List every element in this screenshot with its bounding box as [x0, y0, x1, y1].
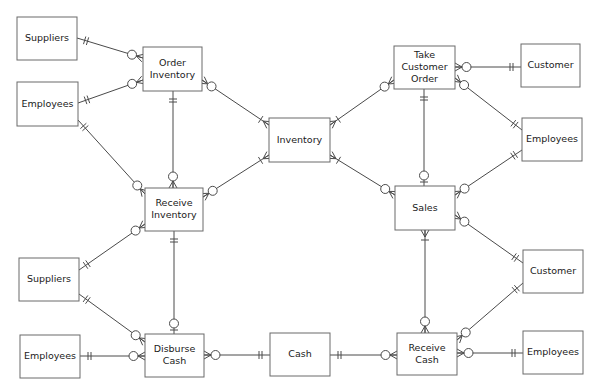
zero-circle-icon: [460, 81, 469, 90]
crows-foot-icon: [169, 181, 173, 188]
crows-foot-icon: [421, 230, 425, 237]
crows-foot-icon: [138, 352, 145, 356]
relationship-line: [79, 294, 147, 345]
entity-box-employees1: Employees: [17, 82, 78, 126]
zero-circle-icon: [211, 351, 220, 360]
entity-box-employees3: Employees: [20, 335, 80, 378]
one-bar-icon: [336, 116, 341, 123]
entity-box-order-inventory: OrderInventory: [143, 47, 202, 91]
crows-foot-icon: [204, 351, 211, 355]
entity-label: Cash: [288, 348, 311, 359]
zero-circle-icon: [208, 186, 217, 195]
entity-label: Take: [413, 49, 435, 60]
zero-circle-icon: [461, 328, 470, 337]
relationship-line: [79, 221, 147, 270]
zero-circle-icon: [207, 82, 216, 91]
crows-foot-icon: [457, 353, 464, 357]
zero-circle-icon: [129, 352, 138, 361]
entity-box-employees4: Employees: [523, 331, 583, 374]
zero-circle-icon: [381, 184, 390, 193]
relationship-line: [80, 352, 145, 361]
relationship-line: [328, 77, 397, 129]
zero-circle-icon: [170, 319, 179, 328]
entities-layer: SuppliersEmployeesOrderInventoryInventor…: [17, 17, 583, 378]
relationship-line: [200, 77, 271, 129]
er-diagram: SuppliersEmployeesOrderInventoryInventor…: [0, 0, 600, 391]
zero-circle-icon: [462, 63, 471, 72]
zero-circle-icon: [420, 171, 429, 180]
entity-label: Customer: [401, 61, 447, 72]
one-bar-icon: [258, 157, 262, 164]
entity-label: Suppliers: [25, 32, 69, 43]
zero-circle-icon: [460, 217, 469, 226]
entity-label: Customer: [527, 59, 573, 70]
zero-circle-icon: [127, 50, 136, 59]
crows-foot-icon: [455, 67, 462, 71]
relationship-line: [453, 212, 523, 263]
relationship-line: [420, 89, 429, 186]
one-bar-icon: [336, 157, 340, 164]
entity-label: Receive: [155, 197, 192, 208]
crows-foot-icon: [138, 356, 145, 360]
entity-box-suppliers1: Suppliers: [17, 17, 77, 60]
entity-label: Order: [411, 73, 438, 84]
entity-box-sales: Sales: [395, 186, 455, 230]
relationship-line: [453, 75, 522, 130]
crows-foot-icon: [421, 326, 425, 333]
entity-label: Employees: [527, 346, 579, 357]
entity-box-customer1: Customer: [521, 44, 580, 87]
entity-label: Inventory: [277, 134, 323, 145]
relationship-line: [455, 63, 521, 72]
crows-foot-icon: [204, 355, 211, 359]
entity-box-disburse-cash: DisburseCash: [145, 334, 204, 377]
entity-box-receive-cash: ReceiveCash: [397, 333, 457, 375]
crows-foot-icon: [425, 326, 429, 333]
relationship-line: [77, 36, 144, 61]
zero-circle-icon: [133, 181, 142, 190]
entity-box-customer2: Customer: [523, 250, 583, 293]
entity-box-employees2: Employees: [522, 118, 582, 161]
relationship-line: [454, 283, 523, 343]
relationship-line: [204, 351, 270, 360]
relationship-line: [330, 351, 397, 360]
zero-circle-icon: [380, 82, 389, 91]
relationship-line: [78, 120, 148, 197]
zero-circle-icon: [128, 79, 137, 88]
entity-label: Cash: [415, 354, 438, 365]
entity-label: Employees: [22, 98, 74, 109]
crows-foot-icon: [457, 349, 464, 353]
relationship-line: [78, 76, 144, 104]
relationship-line: [169, 91, 178, 188]
relationship-line: [201, 152, 271, 201]
entity-box-inventory: Inventory: [269, 118, 330, 162]
crows-foot-icon: [390, 351, 397, 355]
entity-box-cash: Cash: [270, 333, 330, 376]
entity-label: Receive: [408, 342, 445, 353]
zero-circle-icon: [464, 349, 473, 358]
entity-label: Sales: [412, 202, 437, 213]
relationship-line: [453, 150, 522, 198]
crows-foot-icon: [455, 63, 462, 67]
relationship-line: [457, 349, 523, 358]
zero-circle-icon: [131, 331, 140, 340]
zero-circle-icon: [460, 184, 469, 193]
relationship-line: [170, 231, 179, 334]
one-bar-icon: [258, 116, 262, 123]
zero-circle-icon: [421, 317, 430, 326]
entity-label: Disburse: [154, 343, 196, 354]
entity-label: Suppliers: [27, 273, 71, 284]
crows-foot-icon: [390, 355, 397, 359]
entity-label: Employees: [24, 350, 76, 361]
entity-label: Order: [159, 57, 186, 68]
entity-box-suppliers2: Suppliers: [19, 258, 79, 301]
entity-label: Employees: [526, 133, 578, 144]
entity-box-take-customer-order: TakeCustomerOrder: [394, 46, 455, 89]
zero-circle-icon: [169, 172, 178, 181]
crows-foot-icon: [173, 181, 177, 188]
crows-foot-icon: [425, 230, 429, 237]
entity-label: Customer: [530, 265, 576, 276]
entity-label: Cash: [163, 355, 186, 366]
entity-label: Inventory: [151, 209, 197, 220]
zero-circle-icon: [381, 351, 390, 360]
relationship-line: [421, 230, 430, 333]
